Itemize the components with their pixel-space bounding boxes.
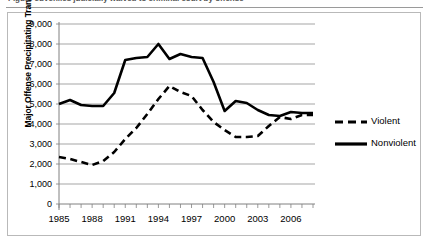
series-line-violent — [59, 86, 313, 165]
chart-legend: Violent Nonviolent — [334, 109, 429, 153]
legend-swatch-dashed — [334, 114, 368, 126]
y-axis-tick-label: 3,000 — [29, 139, 52, 149]
legend-label-violent: Violent — [368, 115, 400, 126]
legend-swatch-solid — [334, 136, 368, 148]
horizontal-rule — [6, 7, 423, 8]
y-axis-tick-label: 0 — [47, 199, 52, 209]
x-axis-tick-label: 1991 — [115, 213, 136, 224]
x-axis-tick-label: 1988 — [82, 213, 103, 224]
legend-item-violent: Violent — [334, 109, 429, 131]
x-axis-tick-label: 1985 — [48, 213, 69, 224]
x-axis-tick-label: 1994 — [148, 213, 169, 224]
chart-page: Figure Juveniles judicially waived to cr… — [0, 0, 429, 246]
chart-frame: 01,0002,0003,0004,0005,0006,0007,0008,00… — [7, 12, 421, 236]
legend-item-nonviolent: Nonviolent — [334, 131, 429, 153]
y-axis-tick-label: 1,000 — [29, 179, 52, 189]
figure-caption-partial: Figure Juveniles judicially waived to cr… — [8, 0, 418, 4]
y-axis-title: Major Offense Precipitating Transfer — [23, 0, 33, 136]
x-axis-tick-label: 1997 — [181, 213, 202, 224]
x-axis-tick-label: 2006 — [280, 213, 301, 224]
y-axis-tick-label: 2,000 — [29, 159, 52, 169]
legend-label-nonviolent: Nonviolent — [368, 137, 416, 148]
x-axis-tick-label: 2000 — [214, 213, 235, 224]
series-line-nonviolent — [59, 44, 313, 116]
x-axis-tick-label: 2003 — [247, 213, 268, 224]
